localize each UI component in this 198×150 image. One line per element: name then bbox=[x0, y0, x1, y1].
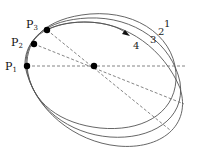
point-p1 bbox=[24, 63, 30, 69]
curve-label-2: 2 bbox=[158, 26, 164, 37]
orbit-diagram: P1 P2 P3 1 2 3 4 bbox=[0, 0, 198, 150]
curve-label-4: 4 bbox=[133, 40, 139, 51]
center-point bbox=[91, 63, 97, 69]
label-p3: P3 bbox=[26, 18, 38, 32]
label-p1: P1 bbox=[5, 60, 17, 74]
curve-4 bbox=[47, 22, 126, 33]
point-p3 bbox=[44, 27, 50, 33]
curve-3 bbox=[25, 22, 183, 146]
point-p2 bbox=[31, 41, 37, 47]
curve-label-3: 3 bbox=[150, 34, 156, 45]
dashed-lines bbox=[27, 30, 186, 130]
dash-p3-center bbox=[47, 30, 170, 130]
curve-label-1: 1 bbox=[164, 18, 170, 29]
dash-p2-center bbox=[34, 44, 184, 104]
label-p2: P2 bbox=[11, 36, 23, 50]
